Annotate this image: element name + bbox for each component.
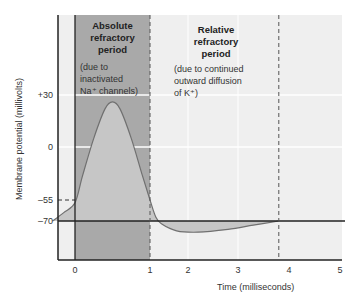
x-tick-label: 3 bbox=[235, 265, 240, 275]
x-axis-title: Time (milliseconds) bbox=[217, 282, 294, 292]
x-tick-label: 2 bbox=[185, 265, 190, 275]
absolute-refractory-note: Na⁺ channels) bbox=[80, 86, 138, 96]
x-tick-label: 0 bbox=[72, 265, 77, 275]
absolute-refractory-title: Absolute bbox=[92, 20, 133, 31]
relative-refractory-title: Relative bbox=[198, 24, 234, 35]
y-tick-label: +30 bbox=[38, 90, 53, 100]
relative-refractory-note: of K⁺) bbox=[174, 88, 198, 98]
x-tick-label: 5 bbox=[337, 265, 342, 275]
absolute-refractory-title: refractory bbox=[90, 32, 135, 43]
y-tick-label: –70 bbox=[38, 216, 53, 226]
action-potential-chart: Membrane potential (millivolts) Time (mi… bbox=[0, 0, 358, 304]
relative-refractory-note: (due to continued bbox=[174, 64, 244, 74]
y-tick-label: –55 bbox=[38, 195, 53, 205]
y-tick-label: 0 bbox=[48, 142, 53, 152]
relative-refractory-title: period bbox=[201, 48, 230, 59]
absolute-refractory-note: inactivated bbox=[80, 74, 123, 84]
relative-refractory-title: refractory bbox=[194, 36, 239, 47]
y-axis-title: Membrane potential (millivolts) bbox=[14, 78, 24, 200]
absolute-refractory-note: (due to bbox=[80, 62, 108, 72]
x-tick-label: 4 bbox=[286, 265, 291, 275]
relative-refractory-note: outward diffusion bbox=[174, 76, 242, 86]
absolute-refractory-title: period bbox=[98, 44, 127, 55]
x-tick-label: 1 bbox=[147, 265, 152, 275]
